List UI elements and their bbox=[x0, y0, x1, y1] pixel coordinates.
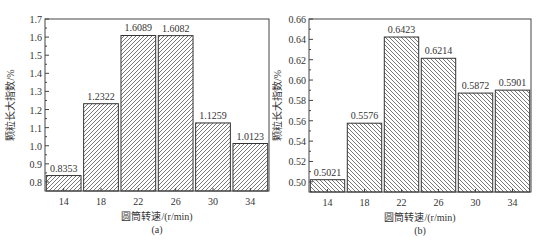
bar-26 bbox=[421, 58, 455, 192]
data-label: 1.0123 bbox=[237, 131, 265, 142]
y-tick-label: 0.54 bbox=[289, 136, 307, 147]
bar-30 bbox=[196, 123, 231, 191]
x-axis-label: 圆筒转速/(r/min) bbox=[384, 211, 455, 224]
data-label: 0.5872 bbox=[462, 80, 490, 91]
panel-label: (a) bbox=[151, 224, 162, 236]
data-label: 0.5901 bbox=[499, 77, 527, 88]
y-tick-label: 0.64 bbox=[289, 34, 307, 45]
x-axis-label: 圆筒转速/(r/min) bbox=[121, 210, 192, 223]
y-tick-label: 1.1 bbox=[30, 123, 43, 134]
data-label: 1.1259 bbox=[199, 110, 227, 121]
bar-22 bbox=[384, 37, 418, 192]
y-tick-label: 0.66 bbox=[289, 14, 307, 25]
x-tick-label: 34 bbox=[508, 197, 518, 208]
y-tick-label: 1.6 bbox=[30, 32, 43, 43]
y-tick-label: 1.0 bbox=[30, 141, 43, 152]
y-axis-label: 颗粒长大指数/% bbox=[272, 70, 283, 141]
y-tick-label: 0.9 bbox=[30, 159, 43, 170]
y-tick-label: 1.4 bbox=[30, 68, 43, 79]
y-axis-label: 颗粒长大指数/% bbox=[4, 69, 16, 140]
bar-22 bbox=[121, 35, 156, 191]
y-tick-label: 0.60 bbox=[289, 75, 307, 86]
y-tick-label: 1.5 bbox=[30, 50, 43, 61]
y-tick-label: 0.62 bbox=[289, 55, 307, 66]
bar-18 bbox=[84, 104, 119, 191]
x-tick-label: 18 bbox=[96, 196, 106, 207]
bar-18 bbox=[347, 123, 381, 192]
bar-34 bbox=[233, 144, 268, 191]
x-tick-label: 18 bbox=[360, 197, 370, 208]
y-tick-label: 0.8 bbox=[30, 177, 43, 188]
y-tick-label: 0.58 bbox=[289, 95, 307, 106]
data-label: 0.6214 bbox=[425, 45, 453, 56]
data-label: 0.5576 bbox=[351, 110, 379, 121]
data-label: 0.6423 bbox=[388, 24, 416, 35]
y-tick-label: 0.52 bbox=[289, 156, 307, 167]
data-label: 1.6082 bbox=[162, 23, 190, 34]
bar-34 bbox=[495, 90, 529, 192]
bar-26 bbox=[158, 36, 193, 191]
x-tick-label: 14 bbox=[323, 197, 333, 208]
x-tick-label: 22 bbox=[133, 196, 143, 207]
x-tick-label: 26 bbox=[171, 196, 181, 207]
bar-30 bbox=[458, 93, 492, 192]
bar-chart-a: 0.8353141.2322181.6089221.6082261.125930… bbox=[0, 0, 272, 248]
x-tick-label: 26 bbox=[434, 197, 444, 208]
y-tick-label: 0.50 bbox=[289, 177, 307, 188]
chart-panel-b: 0.5021140.5576180.6423220.6214260.587230… bbox=[272, 0, 544, 248]
data-label: 1.2322 bbox=[87, 91, 115, 102]
data-label: 1.6089 bbox=[125, 22, 153, 33]
bar-chart-b: 0.5021140.5576180.6423220.6214260.587230… bbox=[272, 0, 544, 248]
data-label: 0.5021 bbox=[314, 167, 342, 178]
y-tick-label: 1.7 bbox=[30, 14, 43, 25]
x-tick-label: 30 bbox=[471, 197, 481, 208]
x-tick-label: 22 bbox=[397, 197, 407, 208]
y-tick-label: 1.2 bbox=[30, 105, 43, 116]
chart-panel-a: 0.8353141.2322181.6089221.6082261.125930… bbox=[0, 0, 272, 248]
data-label: 0.8353 bbox=[50, 163, 78, 174]
y-tick-label: 1.3 bbox=[30, 86, 43, 97]
panel-label: (b) bbox=[414, 225, 426, 237]
x-tick-label: 14 bbox=[59, 196, 69, 207]
y-tick-label: 0.56 bbox=[289, 116, 307, 127]
x-tick-label: 30 bbox=[208, 196, 218, 207]
x-tick-label: 34 bbox=[245, 196, 255, 207]
